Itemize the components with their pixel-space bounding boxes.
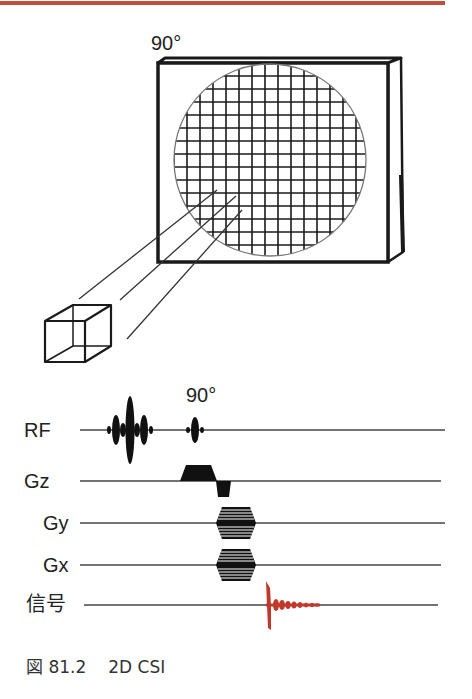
fid-signal	[266, 581, 320, 630]
row-label-rf: RF	[24, 420, 51, 440]
row-label-gy: Gy	[43, 513, 69, 533]
gz-waveform	[180, 465, 231, 497]
rf-90-pulse	[186, 417, 204, 443]
row-label-signal: 信号	[26, 594, 66, 614]
row-label-gz: Gz	[24, 471, 50, 491]
voxel-cube	[45, 305, 111, 362]
gy-phase-table	[216, 507, 256, 539]
rf-selective-pulses	[107, 396, 153, 464]
timing-lines	[80, 430, 445, 605]
row-label-gx: Gx	[43, 555, 69, 575]
caption-number: 図 81.2	[26, 657, 86, 677]
caption-title: 2D CSI	[108, 657, 165, 677]
gx-phase-table	[216, 549, 256, 581]
sequence-flip-angle-label: 90°	[186, 385, 216, 405]
csi-diagram	[0, 0, 472, 699]
figure-caption: 図 81.22D CSI	[26, 653, 165, 678]
